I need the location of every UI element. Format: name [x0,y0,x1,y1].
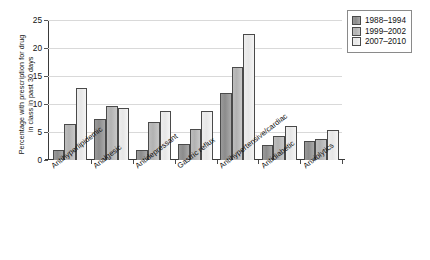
legend-label: 1999–2002 [365,27,406,36]
bar-group [91,20,133,160]
y-axis-tick [44,104,48,105]
legend-swatch-icon [352,37,361,46]
y-axis-tick-label: 5 [37,128,42,136]
bar-group [300,20,342,160]
y-axis-tick-label: 20 [33,44,42,52]
x-axis-labels: AntihyperlipidemicAnalgesicAntidepressan… [48,162,348,257]
legend-item: 1988–1994 [352,16,406,25]
legend-item: 2007–2010 [352,37,406,46]
legend-swatch-icon [352,27,361,36]
legend-swatch-icon [352,16,361,25]
y-axis-tick [44,20,48,21]
y-axis-title-line2: in class in past 30 days [27,9,36,179]
bar-group [258,20,300,160]
legend: 1988–1994 1999–2002 2007–2010 [347,10,412,53]
y-axis-tick-label: 10 [33,100,42,108]
legend-label: 1988–1994 [365,16,406,25]
y-axis-tick [44,48,48,49]
y-axis-tick-label: 0 [37,156,42,164]
legend-label: 2007–2010 [365,37,406,46]
y-axis-title-line1: Percentage with prescription for drug [18,35,26,155]
y-axis-tick [44,132,48,133]
bar-chart-figure: Percentage with prescription for drug in… [0,0,430,260]
y-axis-tick [44,160,48,161]
bar [220,93,232,160]
figure-caption [0,254,430,260]
y-axis-tick-label: 25 [33,16,42,24]
y-axis-title: Percentage with prescription for drug in… [18,9,37,179]
y-axis-tick-label: 15 [33,72,42,80]
legend-item: 1999–2002 [352,27,406,36]
y-axis-tick [44,76,48,77]
